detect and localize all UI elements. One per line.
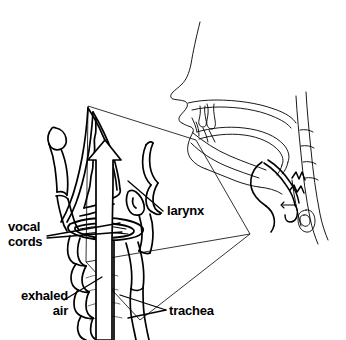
label-trachea: trachea	[169, 303, 214, 318]
label-exhaled-air: exhaledair	[8, 288, 68, 318]
label-vocal-cords: vocalcords	[8, 219, 42, 249]
posterior-laryngeal-wall	[126, 242, 149, 340]
tongue	[191, 133, 266, 178]
label-larynx: larynx	[167, 203, 204, 218]
trachea-tube	[68, 236, 122, 340]
larynx-diagram-figure: vocalcords exhaledair larynx trachea	[0, 0, 346, 340]
label-vocal-cords-line1: vocal	[8, 219, 40, 234]
hyoid-bone	[48, 127, 79, 231]
label-exhaled-air-line1: exhaled	[21, 288, 68, 303]
pharynx	[251, 162, 275, 232]
head-profile-sagittal-section	[171, 22, 282, 194]
label-vocal-cords-line2: cords	[8, 234, 42, 249]
epiglottis	[264, 160, 305, 222]
label-exhaled-air-line2: air	[53, 303, 68, 318]
leader-trachea-2	[128, 310, 166, 318]
nasal-cavity	[188, 100, 296, 142]
cricoid-cartilage	[127, 142, 162, 253]
